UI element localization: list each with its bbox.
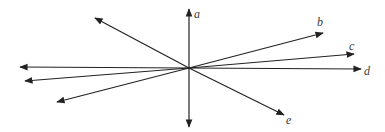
ray-label-c: c bbox=[349, 39, 355, 53]
ray-label-b: b bbox=[317, 15, 323, 29]
lines-diagram: abcde bbox=[0, 0, 385, 132]
ray-upper-left-arrow bbox=[95, 18, 189, 68]
diagram-canvas: abcde bbox=[0, 0, 385, 132]
ray-label-e: e bbox=[286, 113, 292, 127]
ray-label-d: d bbox=[364, 64, 371, 78]
ray-left-arrow bbox=[20, 67, 189, 68]
ray-label-a: a bbox=[194, 7, 200, 21]
ray-d-arrow bbox=[189, 68, 361, 69]
ray-e-arrow bbox=[189, 68, 284, 115]
